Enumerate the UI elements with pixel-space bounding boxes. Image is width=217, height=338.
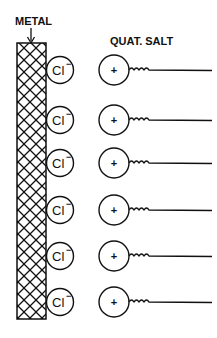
- chloride-ion: Cl−: [47, 197, 74, 224]
- quat-cation: +: [99, 148, 212, 178]
- quat-cation: +: [99, 195, 212, 225]
- chloride-symbol: Cl: [52, 295, 64, 310]
- chloride-charge: −: [66, 245, 71, 255]
- metal-surface: [17, 43, 46, 319]
- chloride-symbol: Cl: [52, 63, 64, 78]
- ion-pair-rows: Cl−+Cl−+Cl−+Cl−+Cl−+Cl−+: [47, 55, 213, 317]
- chloride-symbol: Cl: [52, 113, 64, 128]
- alkyl-tail: [129, 68, 212, 71]
- alkyl-tail: [129, 118, 212, 121]
- plus-icon: +: [111, 296, 117, 308]
- quat-cation: +: [99, 241, 212, 271]
- chloride-ion: Cl−: [47, 57, 74, 84]
- ion-pair-row: Cl−+: [47, 195, 213, 225]
- chloride-ion: Cl−: [47, 289, 74, 316]
- ion-pair-row: Cl−+: [47, 148, 213, 178]
- quat-cation: +: [99, 105, 212, 135]
- chloride-ion: Cl−: [47, 107, 74, 134]
- chloride-symbol: Cl: [52, 203, 64, 218]
- chloride-symbol: Cl: [52, 156, 64, 171]
- plus-icon: +: [111, 157, 117, 169]
- arrow-down-icon: [28, 28, 35, 43]
- quat-cation: +: [99, 287, 212, 317]
- alkyl-tail: [129, 300, 212, 303]
- alkyl-tail: [129, 208, 212, 211]
- ion-pair-row: Cl−+: [47, 287, 213, 317]
- plus-icon: +: [111, 204, 117, 216]
- chloride-charge: −: [66, 199, 71, 209]
- chloride-symbol: Cl: [52, 249, 64, 264]
- chloride-charge: −: [66, 152, 71, 162]
- chloride-charge: −: [66, 109, 71, 119]
- ion-pair-row: Cl−+: [47, 105, 213, 135]
- chloride-charge: −: [66, 59, 71, 69]
- quat-salt-label: QUAT. SALT: [110, 35, 173, 47]
- alkyl-tail: [129, 161, 212, 164]
- alkyl-tail: [129, 254, 212, 257]
- plus-icon: +: [111, 114, 117, 126]
- plus-icon: +: [111, 64, 117, 76]
- chloride-ion: Cl−: [47, 243, 74, 270]
- chloride-ion: Cl−: [47, 150, 74, 177]
- quat-cation: +: [99, 55, 212, 85]
- plus-icon: +: [111, 250, 117, 262]
- ion-pair-row: Cl−+: [47, 241, 213, 271]
- metal-label: METAL: [15, 15, 52, 27]
- metal-surface-quat-salt-diagram: METAL QUAT. SALT Cl−+Cl−+Cl−+Cl−+Cl−+Cl−…: [0, 0, 217, 338]
- chloride-charge: −: [66, 291, 71, 301]
- ion-pair-row: Cl−+: [47, 55, 213, 85]
